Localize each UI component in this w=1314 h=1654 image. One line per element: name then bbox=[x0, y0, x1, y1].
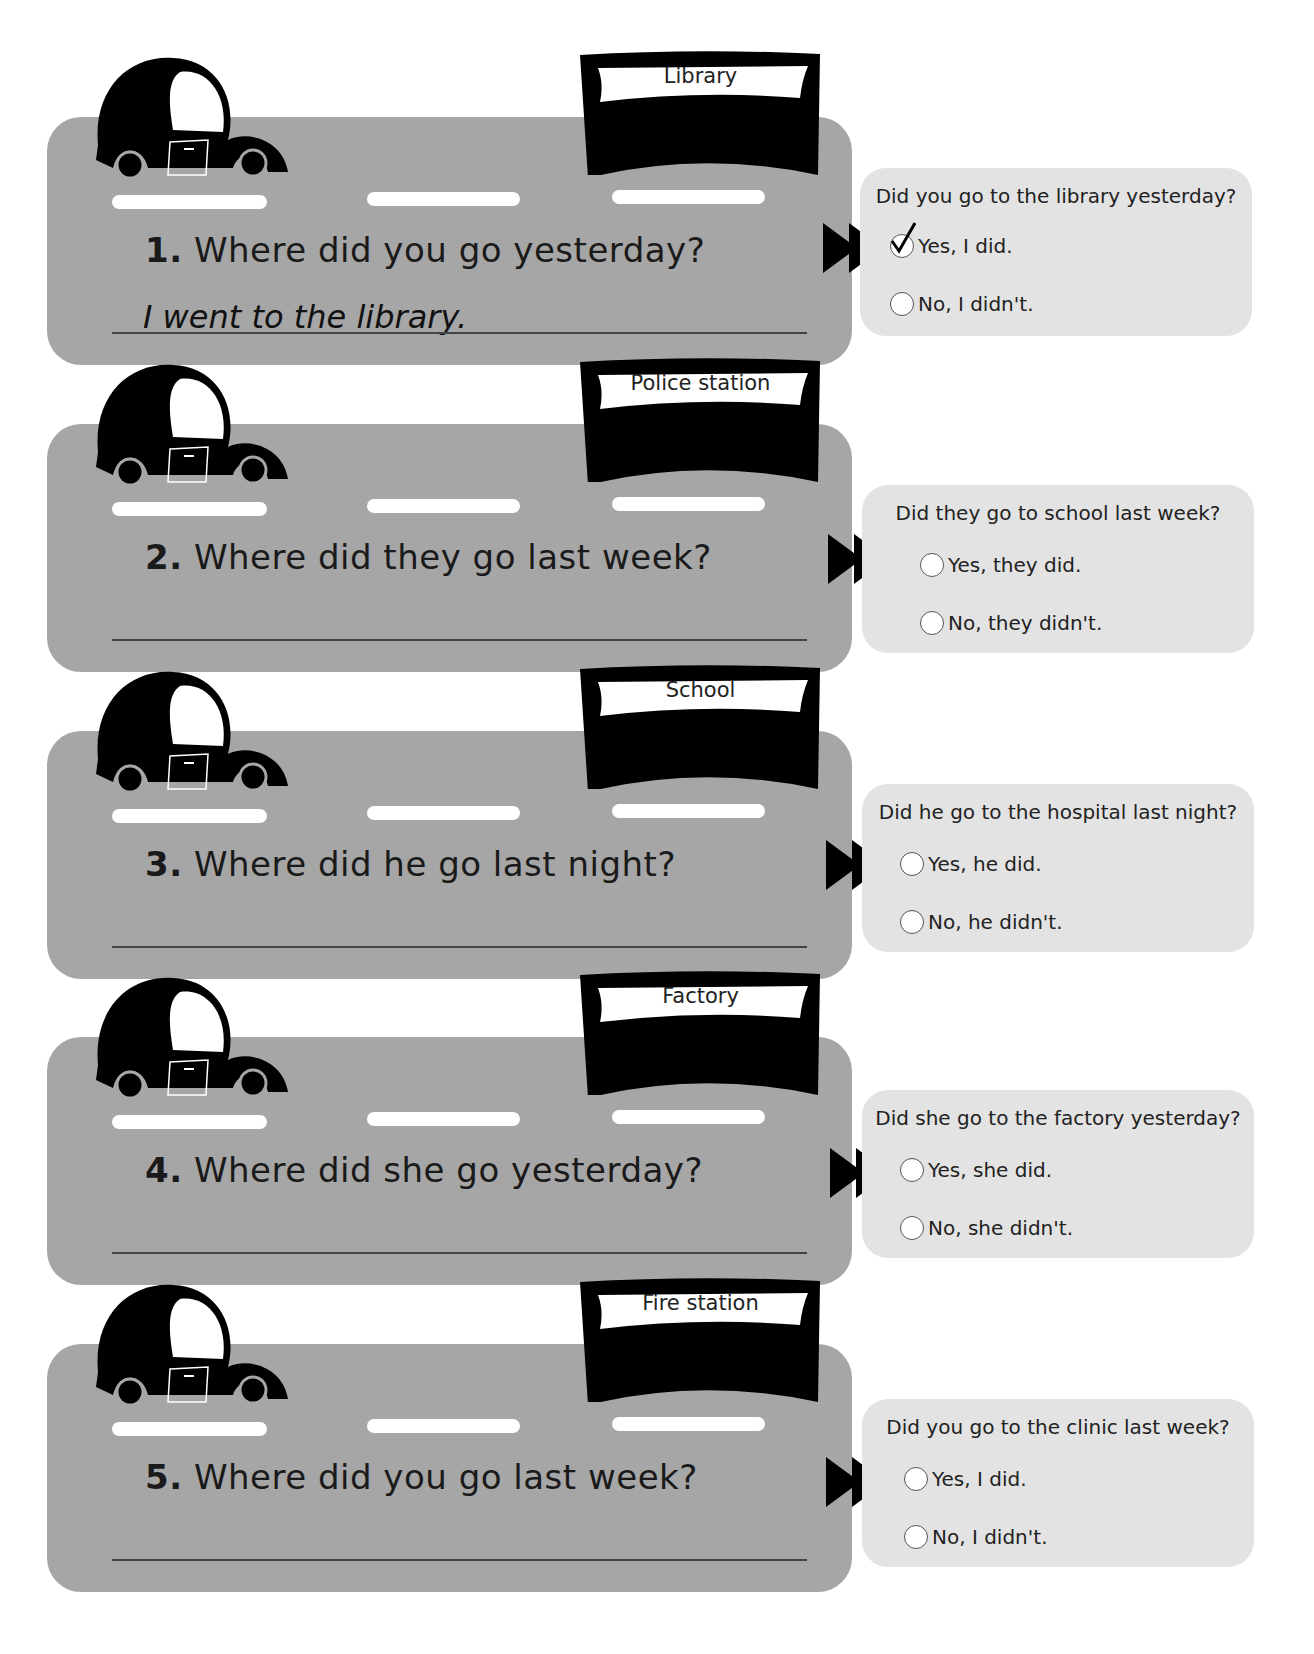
option-no[interactable]: No, I didn't. bbox=[904, 1525, 1048, 1549]
bubble-question: Did she go to the factory yesterday? bbox=[862, 1106, 1254, 1130]
answer-bubble: Did they go to school last week? Yes, th… bbox=[862, 485, 1254, 653]
worksheet-item-4: Factory 4. Where did she go yesterday? D… bbox=[0, 970, 1314, 1270]
option-yes[interactable]: Yes, I did. bbox=[890, 234, 1013, 258]
answer-line bbox=[112, 639, 807, 641]
road-dash bbox=[367, 192, 520, 206]
option-yes-label: Yes, they did. bbox=[948, 553, 1081, 577]
road-dash bbox=[367, 499, 520, 513]
question-text: 1. Where did you go yesterday? bbox=[145, 230, 705, 270]
question-text: 2. Where did they go last week? bbox=[145, 537, 712, 577]
question-number: 5. bbox=[145, 1457, 183, 1497]
option-no[interactable]: No, I didn't. bbox=[890, 292, 1034, 316]
car-icon bbox=[88, 357, 298, 497]
radio-yes[interactable] bbox=[890, 234, 914, 258]
question-text: 4. Where did she go yesterday? bbox=[145, 1150, 703, 1190]
radio-no[interactable] bbox=[900, 910, 924, 934]
road-dash bbox=[612, 804, 765, 818]
radio-yes[interactable] bbox=[900, 1158, 924, 1182]
checkmark-icon bbox=[889, 221, 919, 255]
question-label: Where did you go yesterday? bbox=[194, 230, 705, 270]
option-no-label: No, I didn't. bbox=[932, 1525, 1048, 1549]
option-no[interactable]: No, he didn't. bbox=[900, 910, 1063, 934]
car-icon bbox=[88, 1277, 298, 1417]
bubble-question: Did they go to school last week? bbox=[862, 501, 1254, 525]
option-no[interactable]: No, she didn't. bbox=[900, 1216, 1073, 1240]
road-dash bbox=[112, 195, 267, 209]
car-icon bbox=[88, 50, 298, 190]
option-no-label: No, he didn't. bbox=[928, 910, 1063, 934]
road-dash bbox=[612, 190, 765, 204]
question-number: 3. bbox=[145, 844, 183, 884]
worksheet-item-3: School 3. Where did he go last night? Di… bbox=[0, 664, 1314, 964]
destination-sign-label: Factory bbox=[598, 984, 803, 1008]
question-text: 3. Where did he go last night? bbox=[145, 844, 676, 884]
worksheet-item-2: Police station 2. Where did they go last… bbox=[0, 357, 1314, 657]
radio-yes[interactable] bbox=[900, 852, 924, 876]
radio-yes[interactable] bbox=[920, 553, 944, 577]
bubble-question: Did you go to the clinic last week? bbox=[862, 1415, 1254, 1439]
road-dash bbox=[367, 806, 520, 820]
question-label: Where did they go last week? bbox=[194, 537, 712, 577]
radio-no[interactable] bbox=[890, 292, 914, 316]
option-yes[interactable]: Yes, he did. bbox=[900, 852, 1042, 876]
road-dash bbox=[112, 1422, 267, 1436]
car-icon bbox=[88, 664, 298, 804]
option-yes[interactable]: Yes, she did. bbox=[900, 1158, 1052, 1182]
option-yes[interactable]: Yes, I did. bbox=[904, 1467, 1027, 1491]
road-dash bbox=[112, 809, 267, 823]
road-dash bbox=[367, 1419, 520, 1433]
answer-bubble: Did you go to the clinic last week? Yes,… bbox=[862, 1399, 1254, 1567]
car-icon bbox=[88, 970, 298, 1110]
question-label: Where did you go last week? bbox=[194, 1457, 698, 1497]
answer-bubble: Did you go to the library yesterday? Yes… bbox=[860, 168, 1252, 336]
worksheet-item-1: Library 1. Where did you go yesterday? I… bbox=[0, 50, 1314, 350]
road-dash bbox=[367, 1112, 520, 1126]
option-yes-label: Yes, she did. bbox=[928, 1158, 1052, 1182]
option-yes-label: Yes, I did. bbox=[932, 1467, 1027, 1491]
road-dash bbox=[612, 497, 765, 511]
question-text: 5. Where did you go last week? bbox=[145, 1457, 698, 1497]
road-dash bbox=[112, 502, 267, 516]
destination-sign-label: Library bbox=[598, 64, 803, 88]
answer-line bbox=[112, 1252, 807, 1254]
radio-no[interactable] bbox=[904, 1525, 928, 1549]
radio-no[interactable] bbox=[900, 1216, 924, 1240]
option-no-label: No, she didn't. bbox=[928, 1216, 1073, 1240]
question-label: Where did she go yesterday? bbox=[194, 1150, 703, 1190]
road-dash bbox=[612, 1110, 765, 1124]
answer-line bbox=[112, 332, 807, 334]
option-yes[interactable]: Yes, they did. bbox=[920, 553, 1081, 577]
question-number: 2. bbox=[145, 537, 183, 577]
option-yes-label: Yes, I did. bbox=[918, 234, 1013, 258]
option-no[interactable]: No, they didn't. bbox=[920, 611, 1102, 635]
destination-sign-label: Fire station bbox=[598, 1291, 803, 1315]
road-dash bbox=[112, 1115, 267, 1129]
option-no-label: No, they didn't. bbox=[948, 611, 1102, 635]
bubble-question: Did he go to the hospital last night? bbox=[862, 800, 1254, 824]
road-dash bbox=[612, 1417, 765, 1431]
answer-input[interactable]: I went to the library. bbox=[143, 298, 467, 336]
answer-line bbox=[112, 1559, 807, 1561]
destination-sign-label: School bbox=[598, 678, 803, 702]
answer-bubble: Did he go to the hospital last night? Ye… bbox=[862, 784, 1254, 952]
destination-sign-label: Police station bbox=[598, 371, 803, 395]
bubble-question: Did you go to the library yesterday? bbox=[860, 184, 1252, 208]
question-label: Where did he go last night? bbox=[194, 844, 676, 884]
option-yes-label: Yes, he did. bbox=[928, 852, 1042, 876]
radio-yes[interactable] bbox=[904, 1467, 928, 1491]
option-no-label: No, I didn't. bbox=[918, 292, 1034, 316]
answer-line bbox=[112, 946, 807, 948]
answer-bubble: Did she go to the factory yesterday? Yes… bbox=[862, 1090, 1254, 1258]
worksheet-item-5: Fire station 5. Where did you go last we… bbox=[0, 1277, 1314, 1577]
question-number: 4. bbox=[145, 1150, 183, 1190]
question-number: 1. bbox=[145, 230, 183, 270]
radio-no[interactable] bbox=[920, 611, 944, 635]
